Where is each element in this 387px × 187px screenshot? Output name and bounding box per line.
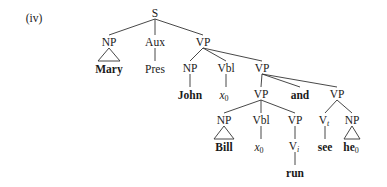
leaf-x0-2: x0 [253,141,263,155]
leaf-x0-1: x0 [218,89,228,103]
leaf-bill: Bill [215,141,232,153]
node-np-he: NP [345,114,360,126]
leaf-and: and [291,89,310,101]
node-s: S [152,7,158,19]
node-aux: Aux [145,36,165,48]
node-np-bill: NP [217,114,232,126]
node-np-mary: NP [102,36,117,48]
node-vbl-1: Vbl [217,62,234,74]
node-np-john: NP [183,62,198,74]
leaf-pres: Pres [145,63,165,75]
node-vi: Vi [289,140,300,154]
node-vp-1: VP [196,36,211,48]
syntax-tree-diagram: (iv) S NP Mary Aux Pres VP NP John Vbl x… [0,0,387,187]
node-vp-3: VP [254,88,269,100]
leaf-mary: Mary [95,63,123,76]
leaf-see: see [318,141,333,153]
leaf-john: John [178,89,203,101]
node-vt: Vt [319,114,330,128]
node-vbl-2: Vbl [252,114,269,126]
leaf-run: run [286,167,305,179]
node-vp-4: VP [330,88,345,100]
example-label: (iv) [26,12,43,25]
leaf-he0: he0 [343,141,359,155]
node-vp-2: VP [255,62,270,74]
node-vp-5: VP [288,114,303,126]
